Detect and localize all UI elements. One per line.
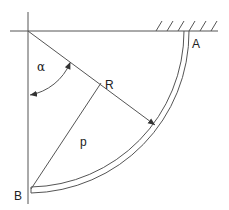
radius-label-r: R <box>105 78 114 92</box>
radius-line <box>28 31 155 125</box>
chord-label-p: p <box>80 135 87 149</box>
chord-line-p <box>31 83 101 189</box>
quarter-circle-diagram: α R p A B <box>0 0 229 210</box>
point-label-b: B <box>14 189 22 203</box>
fixed-support-hatch <box>156 21 217 31</box>
angle-label-alpha: α <box>37 60 45 74</box>
angle-alpha-arc <box>30 63 70 95</box>
curved-beam-outer-arc <box>31 31 189 193</box>
curved-beam-inner-arc <box>31 31 184 187</box>
point-label-a: A <box>192 37 200 51</box>
